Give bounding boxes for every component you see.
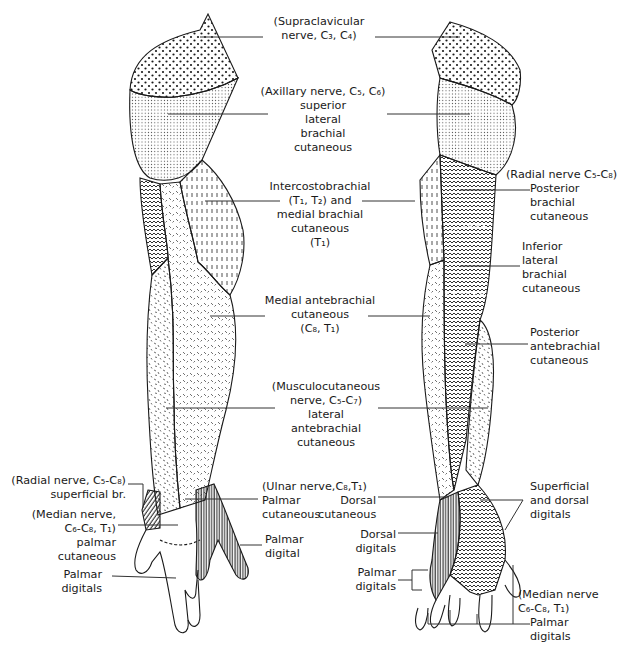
label-inferior-lateral-brachial: Inferior lateral brachial cutaneous: [522, 240, 580, 296]
label-posterior-antebrachial: Posterior antebrachial cutaneous: [530, 326, 600, 368]
label-median-palmar-digitals-posterior: (Median nerve C₆-C₈, T₁) Palmar digitals: [518, 588, 599, 644]
label-ulnar-dorsal-digitals: Dorsal digitals: [336, 528, 396, 556]
nerve-distribution-figure: (Supraclavicular nerve, C₃, C₄) (Axillar…: [0, 0, 624, 648]
anterior-arm: [130, 14, 249, 633]
label-supraclavicular: (Supraclavicular nerve, C₃, C₄): [262, 15, 376, 43]
label-ulnar-dorsal-cutaneous: Dorsal cutaneous: [318, 494, 376, 522]
label-musculocutaneous: (Musculocutaneous nerve, C₅-C₇) lateral …: [268, 380, 384, 450]
label-ulnar-palmar-digitals: Palmar digitals: [336, 566, 396, 594]
label-superficial-dorsal-digitals: Superficial and dorsal digitals: [530, 480, 589, 522]
label-ulnar-header: (Ulnar nerve,C₈,T₁): [262, 480, 367, 494]
label-ulnar-palmar-digital: Palmar digital: [265, 533, 304, 561]
label-intercostobrachial: Intercostobrachial (T₁, T₂) and medial b…: [262, 180, 378, 250]
label-median-palmar-cutaneous: (Median nerve, C₆-C₈, T₁) palmar cutaneo…: [4, 508, 116, 564]
label-axillary: (Axillary nerve, C₅, C₆) superior latera…: [258, 85, 388, 155]
label-ulnar-palmar-cutaneous: Palmar cutaneous: [262, 494, 320, 522]
label-medial-antebrachial: Medial antebrachial cutaneous (C₈, T₁): [262, 294, 378, 336]
label-palmar-digitals-anterior: Palmar digitals: [4, 568, 102, 596]
label-radial-superficial: (Radial nerve, C₅-C₈) superficial br.: [4, 474, 126, 502]
label-radial-posterior-brachial: (Radial nerve C₅-C₈) Posterior brachial …: [506, 168, 617, 224]
